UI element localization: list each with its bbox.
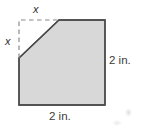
scan-artifact-smudge: [125, 108, 132, 117]
label-bottom-side-length: 2 in.: [49, 111, 71, 123]
label-x-top: x: [33, 4, 39, 15]
figure-svg: [0, 0, 145, 134]
geometry-figure: x x 2 in. 2 in.: [0, 0, 145, 134]
shape-inner-texture: [20, 21, 104, 104]
label-x-left: x: [5, 36, 11, 47]
scan-artifact-smudge-secondary: [112, 120, 122, 126]
label-right-side-length: 2 in.: [109, 55, 131, 67]
